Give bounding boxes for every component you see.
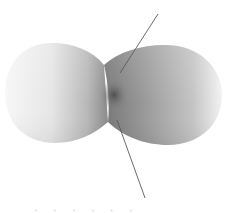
- caption-cutoff: · · · · · ·: [0, 204, 227, 213]
- lobe-diagram: [0, 0, 227, 213]
- center-spot: [100, 79, 128, 111]
- caption-text: · · · · · ·: [34, 205, 138, 213]
